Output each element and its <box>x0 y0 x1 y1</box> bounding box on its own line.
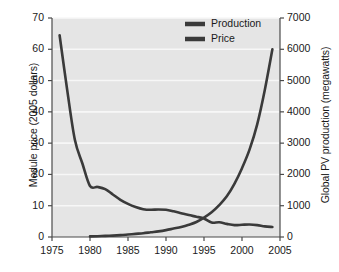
y-axis-right-tick-label: 5000 <box>287 74 327 86</box>
y-axis-right-tick-label: 1000 <box>287 199 327 211</box>
y-axis-left-tick-label: 10 <box>14 199 44 211</box>
y-axis-right-tick-label: 2000 <box>287 167 327 179</box>
legend-label-price: Price <box>211 32 235 44</box>
x-axis-tick-label: 1990 <box>146 244 186 256</box>
y-axis-left-tick-label: 30 <box>14 136 44 148</box>
x-axis-tick-label: 2005 <box>260 244 300 256</box>
x-axis-ticks <box>52 237 280 241</box>
x-axis-tick-label: 1995 <box>184 244 224 256</box>
y-axis-right-tick-label: 4000 <box>287 105 327 117</box>
y-axis-left-tick-label: 70 <box>14 11 44 23</box>
x-axis-tick-label: 1975 <box>32 244 72 256</box>
y-axis-left-tick-label: 40 <box>14 105 44 117</box>
y-axis-right-tick-label: 6000 <box>287 42 327 54</box>
legend-swatch-production <box>185 22 205 27</box>
y-axis-right-tick-label: 0 <box>287 230 327 242</box>
y-axis-left-tick-label: 20 <box>14 167 44 179</box>
y-axis-left-title: Module price (2005 dollars) <box>27 25 39 225</box>
plot-background <box>52 18 280 237</box>
x-axis-tick-label: 2000 <box>222 244 262 256</box>
chart-figure: Module price (2005 dollars) Global PV pr… <box>0 0 339 272</box>
y-axis-left-tick-label: 50 <box>14 74 44 86</box>
legend-label-production: Production <box>211 17 261 29</box>
x-axis-tick-label: 1985 <box>108 244 148 256</box>
y-axis-left-tick-label: 0 <box>14 230 44 242</box>
legend-swatch-price <box>185 37 205 42</box>
x-axis-tick-label: 1980 <box>70 244 110 256</box>
y-axis-left-tick-label: 60 <box>14 42 44 54</box>
y-axis-right-tick-label: 3000 <box>287 136 327 148</box>
y-axis-right-tick-label: 7000 <box>287 11 327 23</box>
